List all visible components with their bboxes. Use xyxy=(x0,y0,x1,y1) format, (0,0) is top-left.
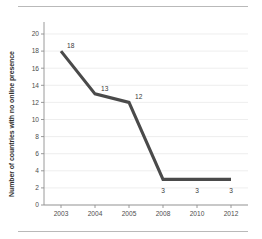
line-chart: 02468101214161820 2003200420052008201020… xyxy=(0,12,262,227)
bottom-divider-rule xyxy=(18,231,248,232)
data-point-label: 3 xyxy=(195,187,199,194)
y-axis-ticks-group: 02468101214161820 xyxy=(32,30,44,208)
data-point-label: 3 xyxy=(229,187,233,194)
y-axis-tick-label: 8 xyxy=(35,133,39,140)
x-axis-tick-label: 2004 xyxy=(88,210,103,217)
y-axis-tick-label: 16 xyxy=(32,65,40,72)
y-axis-tick-label: 20 xyxy=(32,30,40,37)
x-axis-tick-label: 2012 xyxy=(224,210,239,217)
y-axis-tick-label: 10 xyxy=(32,116,40,123)
x-axis-ticks-group: 200320042005200820102012 xyxy=(54,205,239,217)
y-axis-tick-label: 4 xyxy=(35,167,39,174)
data-labels-group: 181312333 xyxy=(67,42,233,194)
x-axis-tick-label: 2010 xyxy=(190,210,205,217)
y-axis-tick-label: 18 xyxy=(32,47,40,54)
x-axis-tick-label: 2005 xyxy=(122,210,137,217)
series-line-countries-no-online-presence xyxy=(61,51,231,179)
top-divider-rule xyxy=(18,6,248,7)
data-point-label: 18 xyxy=(67,42,75,49)
data-point-label: 13 xyxy=(101,85,109,92)
x-axis-tick-label: 2008 xyxy=(156,210,171,217)
y-axis-tick-label: 12 xyxy=(32,99,40,106)
x-axis-tick-label: 2003 xyxy=(54,210,69,217)
y-axis-tick-label: 2 xyxy=(35,184,39,191)
data-point-label: 3 xyxy=(161,187,165,194)
data-point-label: 12 xyxy=(135,93,143,100)
plot-area-wrapper: 02468101214161820 2003200420052008201020… xyxy=(0,12,262,227)
y-axis-tick-label: 14 xyxy=(32,82,40,89)
y-axis-tick-label: 6 xyxy=(35,150,39,157)
y-axis-tick-label: 0 xyxy=(35,201,39,208)
chart-figure: 02468101214161820 2003200420052008201020… xyxy=(0,0,262,239)
y-axis-title: Number of countries with no online prese… xyxy=(8,51,16,197)
